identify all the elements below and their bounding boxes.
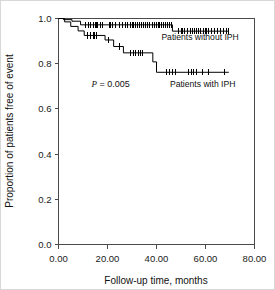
y-tick-label: 0.2 — [38, 194, 51, 205]
y-axis-ticks: 0.00.20.40.60.81.0 — [38, 13, 58, 250]
y-tick-label: 0.6 — [38, 103, 51, 114]
y-axis-title: Proportion of patients free of event — [4, 54, 15, 208]
x-axis-title: Follow-up time, months — [104, 275, 207, 286]
x-tick-label: 40.00 — [145, 253, 169, 264]
x-tick-label: 20.00 — [96, 253, 120, 264]
y-tick-label: 0.0 — [38, 239, 51, 250]
series-label-2: Patients with IPH — [170, 79, 235, 89]
kaplan-meier-chart: 0.0020.0040.0060.0080.00 0.00.20.40.60.8… — [1, 1, 275, 290]
chart-annotations: P = 0.005 — [91, 79, 130, 89]
x-tick-label: 80.00 — [243, 253, 267, 264]
plot-frame — [59, 19, 255, 245]
series-label-1: Patients without IPH — [161, 32, 238, 42]
x-tick-label: 60.00 — [194, 253, 218, 264]
p-value-number: = 0.005 — [97, 79, 130, 89]
series-labels: Patients without IPHPatients with IPH — [161, 32, 238, 89]
y-tick-label: 0.8 — [38, 58, 51, 69]
x-tick-label: 0.00 — [49, 253, 68, 264]
p-value-annotation: P = 0.005 — [91, 79, 130, 89]
figure-container: 0.0020.0040.0060.0080.00 0.00.20.40.60.8… — [0, 0, 275, 290]
x-axis-ticks: 0.0020.0040.0060.0080.00 — [49, 245, 266, 264]
y-tick-label: 1.0 — [38, 13, 51, 24]
y-tick-label: 0.4 — [38, 149, 51, 160]
